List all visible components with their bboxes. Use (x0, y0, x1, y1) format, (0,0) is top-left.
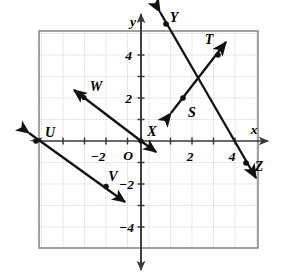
label-W: W (90, 79, 104, 94)
origin-label: O (123, 148, 133, 163)
label-U: U (45, 125, 56, 140)
ytick-neg2: −2 (119, 177, 134, 192)
plot-background (39, 31, 258, 248)
point-Z (243, 160, 249, 166)
ytick-2: 2 (124, 91, 132, 106)
label-S: S (188, 105, 196, 120)
label-X: X (146, 124, 157, 139)
label-Z: Z (254, 159, 264, 174)
point-W (81, 95, 86, 100)
point-Y (163, 21, 169, 27)
point-T (215, 52, 221, 58)
ytick-neg4: −4 (119, 220, 134, 235)
y-axis-label: y (128, 14, 137, 29)
label-Y: Y (170, 10, 180, 25)
label-T: T (205, 32, 215, 47)
xtick-2: 2 (186, 149, 194, 164)
point-V (103, 184, 109, 190)
xtick-4: 4 (228, 149, 236, 164)
point-S (180, 95, 186, 101)
ytick-4: 4 (124, 48, 132, 63)
x-axis-label: x (250, 122, 258, 137)
coordinate-plane-figure: 4 2 −2 −4 −2 2 4 y x O Y T W S U X V Z (0, 0, 289, 277)
xtick-neg2: −2 (91, 149, 106, 164)
point-X (138, 138, 143, 143)
